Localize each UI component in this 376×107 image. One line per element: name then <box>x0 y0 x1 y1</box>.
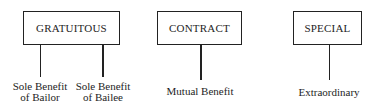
contract-title: CONTRACT <box>169 22 230 34</box>
label-sole-benefit-bailor: Sole Benefit of Bailor <box>13 81 68 103</box>
label-mutual-benefit: Mutual Benefit <box>167 86 234 97</box>
gratuitous-title: GRATUITOUS <box>36 22 107 34</box>
label-line2: of Bailor <box>13 92 68 103</box>
label-extraordinary: Extraordinary <box>298 87 359 98</box>
connector-sole-benefit-bailor <box>40 45 42 77</box>
gratuitous-box: GRATUITOUS <box>23 11 120 45</box>
label-line2: of Bailee <box>76 92 131 103</box>
label-sole-benefit-bailee: Sole Benefit of Bailee <box>76 81 131 103</box>
connector-sole-benefit-bailee <box>102 45 104 77</box>
contract-box: CONTRACT <box>157 11 242 45</box>
label-line1: Mutual Benefit <box>167 86 234 97</box>
special-title: SPECIAL <box>304 22 350 34</box>
connector-mutual-benefit <box>200 45 202 80</box>
label-line1: Extraordinary <box>298 87 359 98</box>
special-box: SPECIAL <box>293 11 362 45</box>
connector-extraordinary <box>329 45 331 80</box>
